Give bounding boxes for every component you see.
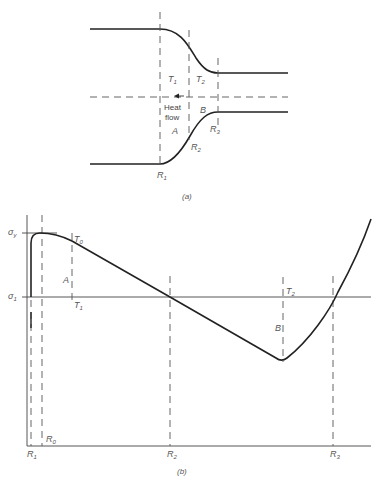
caption-a: (a) (182, 192, 192, 201)
heat-flow-arrow-icon (174, 94, 179, 99)
panel-b: σy σ1 T0 A T1 T2 B R0 R1 R2 R3 (b) (8, 215, 371, 476)
label-T1-b: T1 (74, 300, 83, 311)
label-R0-b: R0 (46, 434, 57, 445)
label-sigma-y: σy (8, 227, 17, 238)
label-flow: flow (165, 113, 179, 122)
label-sigma-1: σ1 (8, 291, 17, 302)
label-T2-b: T2 (286, 286, 296, 297)
label-T1-a: T1 (168, 74, 177, 85)
panel-a: T1 T2 Heat flow B A R3 R2 R1 (a) (90, 12, 288, 201)
label-T2-a: T2 (196, 74, 206, 85)
label-B-a: B (200, 105, 206, 115)
label-R2-a: R2 (191, 142, 202, 153)
label-R2-b: R2 (167, 449, 178, 460)
label-R3-a: R3 (210, 124, 221, 135)
label-A-b: A (62, 275, 69, 285)
label-R1-a: R1 (157, 170, 167, 181)
label-R3-b: R3 (330, 449, 341, 460)
label-A-a: A (171, 126, 178, 136)
caption-b: (b) (177, 467, 187, 476)
label-R1-b: R1 (27, 449, 37, 460)
diagram-canvas: T1 T2 Heat flow B A R3 R2 R1 (a) σy σ1 T… (0, 0, 379, 479)
label-heat: Heat (164, 103, 182, 112)
label-T0-b: T0 (74, 234, 84, 245)
label-B-b: B (275, 323, 281, 333)
